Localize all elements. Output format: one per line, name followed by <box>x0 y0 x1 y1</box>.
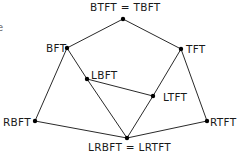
edge-top-tft <box>123 19 181 49</box>
cropped-text-fragment: e <box>0 22 3 33</box>
node-label-bft: BFT <box>46 42 67 54</box>
node-label-tft: TFT <box>185 43 206 55</box>
labels: BTFT = TBFTBFTTFTLBFTLTFTRBFTRTFTLRBFT =… <box>3 1 237 153</box>
edges <box>35 19 207 138</box>
node-label-bottom: LRBFT = LRTFT <box>88 141 171 153</box>
node-label-lbft: LBFT <box>91 69 118 81</box>
lattice-diagram: e BTFT = TBFTBFTTFTLBFTLTFTRBFTRTFTLRBFT… <box>0 0 237 155</box>
node-lbft <box>85 77 89 81</box>
node-rtft <box>205 119 209 123</box>
node-ltft <box>151 94 155 98</box>
edge-rtft-bottom <box>127 121 207 138</box>
edge-bft-rbft <box>35 48 67 121</box>
edge-bft-lbft <box>67 48 87 79</box>
edge-tft-ltft <box>153 49 181 96</box>
node-top <box>121 17 125 21</box>
node-label-rtft: RTFT <box>210 116 237 128</box>
edge-rbft-bottom <box>35 121 127 138</box>
node-tft <box>179 47 183 51</box>
node-label-rbft: RBFT <box>3 116 31 128</box>
nodes <box>33 17 209 140</box>
edge-top-bft <box>67 19 123 48</box>
edge-ltft-bottom <box>127 96 153 138</box>
node-rbft <box>33 119 37 123</box>
node-label-top: BTFT = TBFT <box>90 1 161 13</box>
node-bottom <box>125 136 129 140</box>
edge-tft-rtft <box>181 49 207 121</box>
node-label-ltft: LTFT <box>163 91 188 103</box>
